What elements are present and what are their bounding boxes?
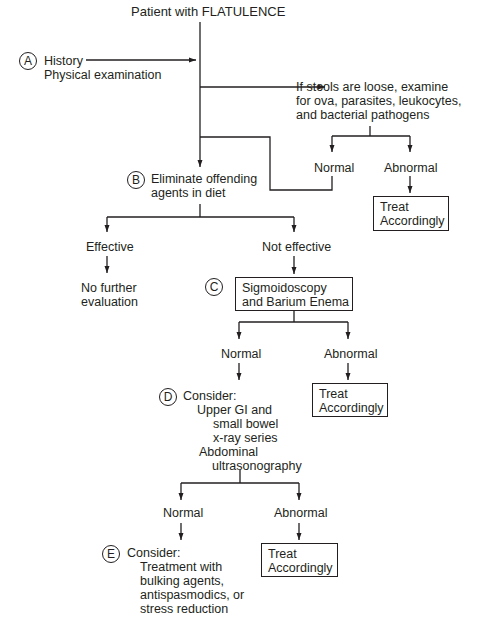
step-b-line-1: Eliminate offending — [151, 172, 257, 186]
treat-box-line-1: Treat — [319, 387, 381, 401]
no-further-line-2: evaluation — [81, 295, 138, 309]
effective-label: Effective — [86, 240, 134, 254]
treat-box-line-1: Treat — [380, 200, 442, 214]
c-abnormal-label: Abnormal — [324, 347, 378, 361]
stool-treat-box: Treat Accordingly — [373, 196, 449, 231]
step-e-line-4: stress reduction — [140, 602, 228, 616]
step-e-heading: Consider: — [127, 546, 181, 560]
d-treat-box: Treat Accordingly — [261, 543, 338, 577]
not-effective-label: Not effective — [262, 240, 331, 254]
sigmoidoscopy-line-1: Sigmoidoscopy — [242, 281, 346, 295]
stool-normal-label: Normal — [314, 161, 354, 175]
step-a-line-1: History — [44, 54, 83, 68]
step-a-marker: A — [19, 52, 37, 70]
stool-check-line-3: and bacterial pathogens — [296, 108, 429, 122]
treat-box-line-1: Treat — [268, 547, 331, 561]
d-abnormal-label: Abnormal — [274, 506, 328, 520]
d-normal-label: Normal — [163, 506, 203, 520]
step-d-marker: D — [159, 388, 177, 406]
treat-box-line-2: Accordingly — [268, 561, 331, 575]
step-d-heading: Consider: — [183, 389, 237, 403]
step-d-line-3: x-ray series — [213, 431, 278, 445]
treat-box-line-2: Accordingly — [380, 214, 442, 228]
sigmoidoscopy-box: Sigmoidoscopy and Barium Enema — [235, 277, 353, 311]
c-normal-label: Normal — [221, 347, 261, 361]
step-e-line-1: Treatment with — [140, 560, 222, 574]
step-d-line-5: ultrasonography — [212, 459, 302, 473]
flatulence-flowchart: Patient with FLATULENCE A History Physic… — [0, 0, 477, 637]
c-treat-box: Treat Accordingly — [312, 383, 388, 417]
stool-check-line-2: for ova, parasites, leukocytes, — [296, 94, 461, 108]
step-e-line-3: antispasmodics, or — [140, 588, 244, 602]
treat-box-line-2: Accordingly — [319, 401, 381, 415]
step-c-marker: C — [205, 278, 223, 296]
step-d-line-2: small bowel — [213, 417, 278, 431]
step-a-line-2: Physical examination — [44, 68, 161, 82]
flowchart-title: Patient with FLATULENCE — [131, 5, 285, 19]
step-e-line-2: bulking agents, — [140, 574, 224, 588]
step-b-line-2: agents in diet — [151, 186, 225, 200]
stool-abnormal-label: Abnormal — [384, 161, 438, 175]
step-e-marker: E — [102, 545, 120, 563]
stool-check-line-1: If stools are loose, examine — [296, 80, 448, 94]
step-b-marker: B — [127, 171, 145, 189]
step-d-line-4: Abdominal — [199, 445, 258, 459]
sigmoidoscopy-line-2: and Barium Enema — [242, 295, 346, 309]
no-further-line-1: No further — [81, 281, 137, 295]
step-d-line-1: Upper GI and — [197, 403, 272, 417]
